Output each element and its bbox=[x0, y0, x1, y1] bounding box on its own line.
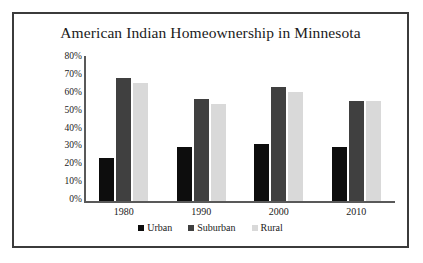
x-axis: 1980199020002010 bbox=[85, 206, 395, 222]
bar-rural-2010 bbox=[366, 101, 381, 201]
legend-item-suburban: Suburban bbox=[188, 222, 235, 233]
x-axis-tick-label: 2000 bbox=[269, 206, 289, 217]
bar-urban-1980 bbox=[99, 158, 114, 201]
bar-rural-1990 bbox=[211, 104, 226, 201]
bar-group bbox=[332, 58, 381, 201]
y-axis-tick-label: 30% bbox=[50, 140, 82, 150]
bar-suburban-1980 bbox=[116, 78, 131, 201]
x-axis-tick-label: 2010 bbox=[346, 206, 366, 217]
bars-canvas bbox=[85, 58, 395, 201]
bar-group bbox=[177, 58, 226, 201]
bar-urban-2010 bbox=[332, 147, 347, 201]
bar-group bbox=[254, 58, 303, 201]
bar-suburban-1990 bbox=[194, 99, 209, 201]
y-axis-tick-label: 80% bbox=[50, 51, 82, 61]
legend-label-suburban: Suburban bbox=[197, 222, 235, 233]
legend-label-urban: Urban bbox=[147, 222, 172, 233]
bar-group bbox=[99, 58, 148, 201]
legend-swatch-urban bbox=[138, 225, 144, 231]
y-axis: 80%70%60%50%40%30%20%10%0% bbox=[50, 46, 82, 189]
x-axis-tick-label: 1990 bbox=[191, 206, 211, 217]
legend-item-urban: Urban bbox=[138, 222, 172, 233]
y-axis-tick-label: 40% bbox=[50, 123, 82, 133]
y-axis-tick-label: 10% bbox=[50, 176, 82, 186]
bar-rural-1980 bbox=[133, 83, 148, 201]
x-axis-line bbox=[84, 201, 395, 203]
chart-frame: American Indian Homeownership in Minneso… bbox=[12, 12, 409, 248]
legend-swatch-suburban bbox=[188, 225, 194, 231]
bar-suburban-2000 bbox=[271, 87, 286, 201]
bar-urban-1990 bbox=[177, 147, 192, 201]
legend: UrbanSuburbanRural bbox=[14, 222, 407, 233]
y-axis-tick-label: 20% bbox=[50, 158, 82, 168]
y-axis-tick-label: 0% bbox=[50, 194, 82, 204]
legend-item-rural: Rural bbox=[252, 222, 283, 233]
y-axis-tick-label: 60% bbox=[50, 87, 82, 97]
bar-suburban-2010 bbox=[349, 101, 364, 201]
bar-rural-2000 bbox=[288, 92, 303, 201]
y-axis-tick-label: 50% bbox=[50, 105, 82, 115]
legend-label-rural: Rural bbox=[261, 222, 283, 233]
plot-area: 80%70%60%50%40%30%20%10%0% 1980199020002… bbox=[50, 46, 395, 221]
y-axis-tick-label: 70% bbox=[50, 69, 82, 79]
x-axis-tick-label: 1980 bbox=[114, 206, 134, 217]
chart-title: American Indian Homeownership in Minneso… bbox=[14, 24, 407, 42]
legend-swatch-rural bbox=[252, 225, 258, 231]
bar-urban-2000 bbox=[254, 144, 269, 201]
